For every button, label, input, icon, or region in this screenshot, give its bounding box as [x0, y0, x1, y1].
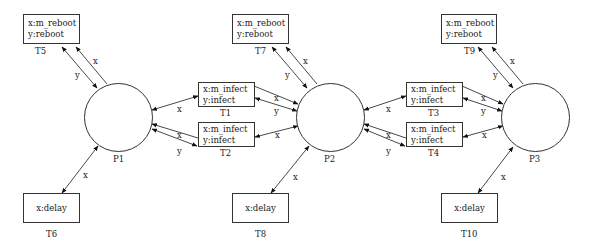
place-label-p1: P1 — [113, 154, 124, 164]
transition-t2-line1: x:m_infect — [203, 124, 250, 135]
transition-t4[interactable]: x:m_infect y:infect — [406, 122, 463, 147]
arc-t4-p2-x — [364, 124, 406, 138]
arc-label-x: x — [482, 130, 487, 140]
transition-t7-line2: y:reboot — [237, 29, 284, 40]
place-p3[interactable] — [501, 83, 570, 152]
transition-t9-line2: y:reboot — [446, 29, 492, 40]
arc-label-x: x — [481, 93, 486, 103]
transition-t6-line1: x:delay — [36, 203, 67, 214]
arc-label-y: y — [285, 70, 290, 80]
transition-label-t2: T2 — [220, 148, 231, 158]
arc-p1-t5-x — [76, 47, 107, 84]
arc-t7-p2-y — [272, 47, 307, 88]
arc-p2-t3-x — [364, 96, 406, 110]
transition-label-t3: T3 — [428, 108, 439, 118]
transition-label-t8: T8 — [255, 229, 266, 239]
transition-t7[interactable]: x:m_reboot y:reboot — [232, 14, 289, 44]
arc-t2-p1-x — [152, 124, 198, 138]
transition-t2-line2: y:infect — [203, 135, 250, 146]
arc-t9-p3-y — [478, 47, 513, 88]
arc-p1-t6-x — [62, 146, 98, 193]
transition-t7-line1: x:m_reboot — [237, 18, 284, 29]
place-p1[interactable] — [84, 83, 153, 152]
arc-label-x: x — [386, 104, 391, 114]
transition-t8[interactable]: x:delay — [232, 193, 289, 223]
transition-label-t9: T9 — [464, 46, 475, 56]
transition-t2[interactable]: x:m_infect y:infect — [198, 122, 255, 147]
transition-label-t7: T7 — [255, 46, 266, 56]
arc-label-x: x — [177, 130, 182, 140]
arc-t5-p1-y — [62, 47, 97, 88]
arc-label-x: x — [274, 93, 279, 103]
transition-t8-line1: x:delay — [245, 203, 276, 214]
arc-label-y: y — [493, 70, 498, 80]
arc-label-x: x — [93, 56, 98, 66]
transition-t10-line1: x:delay — [454, 203, 485, 214]
arc-label-x: x — [303, 56, 308, 66]
arc-p1-t1-x — [152, 96, 198, 110]
transition-t5-line1: x:m_reboot — [28, 18, 75, 29]
arc-label-y: y — [481, 106, 486, 116]
arc-label-x: x — [177, 104, 182, 114]
arc-label-x: x — [501, 172, 506, 182]
arc-label-x: x — [510, 56, 515, 66]
arc-label-x: x — [83, 170, 88, 180]
transition-label-t5: T5 — [35, 46, 46, 56]
transition-t3-line2: y:infect — [411, 95, 458, 106]
transition-t10[interactable]: x:delay — [441, 193, 498, 223]
transition-t4-line1: x:m_infect — [411, 124, 458, 135]
transition-t1-line2: y:infect — [203, 95, 250, 106]
arc-label-y: y — [75, 70, 80, 80]
transition-label-t1: T1 — [220, 108, 231, 118]
transition-t3[interactable]: x:m_infect y:infect — [406, 82, 463, 107]
arc-p3-t10-x — [478, 147, 513, 193]
transition-t5-line2: y:reboot — [28, 29, 75, 40]
arc-label-x: x — [386, 130, 391, 140]
transition-t9[interactable]: x:m_reboot y:reboot — [441, 14, 497, 44]
arc-p2-t7-x — [286, 47, 317, 84]
transition-label-t4: T4 — [428, 148, 439, 158]
transition-t5[interactable]: x:m_reboot y:reboot — [23, 14, 80, 44]
arc-p2-t8-x — [271, 146, 309, 193]
transition-t3-line1: x:m_infect — [411, 84, 458, 95]
transition-label-t6: T6 — [46, 229, 57, 239]
transition-label-t10: T10 — [461, 229, 478, 239]
transition-t4-line2: y:infect — [411, 135, 458, 146]
transition-t1-line1: x:m_infect — [203, 84, 250, 95]
transition-t1[interactable]: x:m_infect y:infect — [198, 82, 255, 107]
transition-t9-line1: x:m_reboot — [446, 18, 492, 29]
place-p2[interactable] — [296, 83, 365, 152]
arc-label-x: x — [275, 130, 280, 140]
arc-label-x: x — [293, 172, 298, 182]
arc-p2-t4-y — [364, 129, 405, 146]
arc-label-y: y — [177, 146, 182, 156]
place-label-p3: P3 — [529, 154, 540, 164]
arc-label-y: y — [274, 106, 279, 116]
arc-p1-t2-y — [152, 129, 197, 146]
place-label-p2: P2 — [324, 154, 335, 164]
arc-label-y: y — [386, 146, 391, 156]
transition-t6[interactable]: x:delay — [23, 193, 80, 223]
